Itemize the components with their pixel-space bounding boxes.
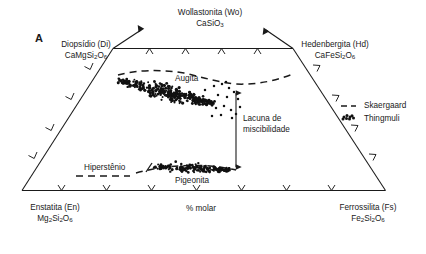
data-point	[352, 117, 355, 120]
tick-bottom-1	[58, 185, 65, 191]
data-point	[154, 166, 157, 169]
skaergaard-augite-trend	[118, 71, 293, 85]
data-point	[160, 99, 162, 101]
tick-bottom-3	[148, 185, 155, 191]
data-point	[213, 170, 215, 172]
data-point	[165, 82, 168, 85]
data-point	[174, 160, 177, 163]
vertex-label-diopside-formula: CaMgSi2O6	[40, 51, 132, 63]
vertex-label-enstatite: Enstatita (En) Mg2Si2O6	[6, 203, 104, 225]
data-point	[136, 85, 139, 88]
data-point	[195, 163, 197, 165]
data-point	[199, 103, 202, 106]
data-point	[191, 166, 194, 169]
vertex-label-enstatite-name: Enstatita (En)	[6, 203, 104, 214]
data-point	[166, 94, 169, 97]
data-point	[178, 100, 180, 102]
tick-left-1	[85, 63, 94, 70]
data-point	[348, 118, 351, 121]
data-point	[164, 166, 167, 169]
vertex-label-diopside-name: Diopsídio (Di)	[40, 40, 132, 51]
data-point	[171, 168, 174, 171]
data-point	[179, 166, 182, 169]
data-point	[188, 93, 191, 96]
data-point	[178, 86, 181, 89]
data-point	[176, 167, 178, 169]
tick-right-3	[351, 125, 358, 132]
data-point	[212, 165, 215, 168]
apex-label-wollastonite: Wollastonita (Wo) CaSiO3	[150, 8, 270, 30]
tick-right-2	[332, 95, 339, 102]
data-point	[228, 87, 231, 90]
data-point	[139, 83, 142, 86]
tick-top-2	[182, 49, 189, 55]
apex-label-wollastonite-name: Wollastonita (Wo)	[150, 8, 270, 19]
data-point	[197, 96, 200, 99]
data-point	[117, 82, 119, 84]
vertex-label-hedenbergite-name: Hedenbergita (Hd)	[283, 40, 387, 51]
data-point	[196, 169, 198, 171]
data-point	[203, 171, 205, 173]
data-point	[177, 93, 180, 96]
data-point	[231, 117, 234, 120]
data-point	[213, 100, 216, 103]
data-point	[217, 94, 220, 97]
data-point	[118, 78, 120, 80]
data-point	[170, 163, 173, 166]
data-point	[342, 118, 345, 121]
data-point	[157, 164, 159, 166]
data-point	[194, 101, 197, 104]
data-point	[192, 93, 195, 96]
vertex-label-hedenbergite-formula: CaFeSi2O6	[283, 51, 387, 63]
data-point	[169, 170, 171, 172]
data-point	[165, 87, 167, 89]
data-point	[128, 85, 131, 88]
apex-label-wollastonite-formula: CaSiO3	[150, 19, 270, 31]
tick-right-4	[369, 154, 376, 161]
legend-markers	[341, 106, 356, 121]
data-point	[346, 114, 349, 117]
data-point	[181, 101, 184, 104]
data-point	[167, 85, 170, 88]
legend-item-label-thingmuli: Thingmuli	[364, 114, 400, 123]
data-point	[185, 93, 187, 95]
tick-right-1	[313, 65, 320, 72]
data-point	[211, 115, 214, 118]
data-point	[194, 97, 197, 100]
vertex-label-ferrosilite-name: Ferrossilita (Fs)	[318, 203, 418, 214]
vertex-label-ferrosilite: Ferrossilita (Fs) Fe2Si2O6	[318, 203, 418, 225]
data-point	[162, 96, 164, 98]
axis-caption-molar-percent: % molar	[161, 204, 241, 215]
data-point	[221, 83, 224, 86]
data-point	[202, 95, 205, 98]
vertex-label-ferrosilite-formula: Fe2Si2O6	[318, 214, 418, 226]
data-point	[180, 163, 182, 165]
annotation-miscibility-gap-line1: Lacuna de	[243, 114, 290, 125]
tick-bottom-2	[103, 185, 110, 191]
data-point	[188, 91, 191, 94]
tick-left-3	[46, 124, 55, 131]
data-point	[237, 98, 240, 101]
data-point	[159, 82, 162, 85]
data-point	[160, 168, 162, 170]
tick-top-4	[254, 49, 261, 55]
vertex-label-enstatite-formula: Mg2Si2O6	[6, 214, 104, 226]
data-point	[208, 169, 210, 171]
tick-marks-left-side	[29, 63, 94, 159]
data-point	[219, 171, 221, 173]
data-point	[148, 87, 150, 89]
data-point	[239, 106, 242, 109]
data-point	[226, 168, 229, 171]
data-point	[345, 117, 348, 120]
data-point	[197, 162, 199, 164]
data-point	[122, 82, 124, 84]
data-point	[208, 100, 211, 103]
data-point	[151, 89, 153, 91]
data-point	[140, 80, 142, 82]
data-point	[186, 97, 188, 99]
field-label-augite: Augita	[175, 74, 198, 85]
data-point	[153, 80, 156, 83]
tick-bottom-5	[238, 185, 245, 191]
data-point	[169, 96, 171, 98]
data-point	[135, 81, 138, 84]
